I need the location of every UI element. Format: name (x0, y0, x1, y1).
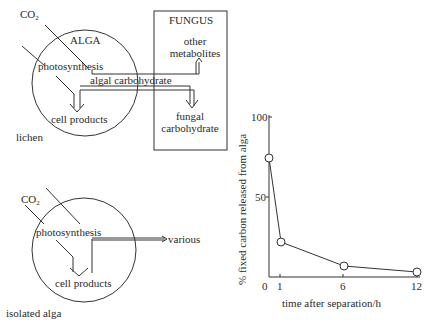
data-point-12h (413, 268, 421, 276)
co2-label-lichen: CO2 (20, 8, 39, 24)
x-tick-1: 1 (277, 280, 283, 292)
x-tick-0: 0 (262, 280, 268, 292)
y-axis-label: % fixed carbon released from alga (236, 134, 248, 285)
isolated-alga-caption: isolated alga (6, 307, 61, 319)
fungal-carbohydrate-label: fungal carbohydrate (155, 110, 225, 134)
cell-products-label-isolated: cell products (55, 277, 112, 289)
data-point-1h (277, 238, 285, 246)
fungus-label: FUNGUS (169, 14, 213, 26)
data-line (269, 158, 417, 272)
algal-carbohydrate-label: algal carbohydrate (90, 74, 172, 86)
chart-axes (266, 115, 420, 277)
x-tick-6: 6 (340, 280, 346, 292)
cell-products-label-lichen: cell products (51, 113, 108, 125)
data-point-0h (265, 154, 273, 162)
co2-label-isolated: CO2 (21, 193, 40, 209)
other-metabolites-label: other metabolites (165, 35, 225, 59)
photosynthesis-label-isolated: photosynthesis (36, 226, 101, 238)
x-tick-12: 12 (411, 280, 422, 292)
photosynthesis-label-lichen: photosynthesis (38, 60, 103, 72)
alga-label: ALGA (70, 34, 101, 46)
x-axis-label: time after separation/h (282, 297, 381, 309)
data-point-6h (340, 262, 348, 270)
various-label: various (168, 233, 200, 245)
y-tick-50: 50 (255, 191, 266, 203)
y-tick-100: 100 (251, 111, 268, 123)
lichen-caption: lichen (16, 131, 43, 143)
